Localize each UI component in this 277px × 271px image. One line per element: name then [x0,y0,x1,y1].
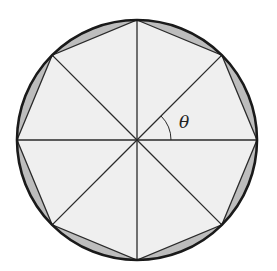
octagon-in-circle-figure: θ [0,0,277,271]
angle-theta-label: θ [179,112,189,132]
diagram: θ [0,0,277,271]
